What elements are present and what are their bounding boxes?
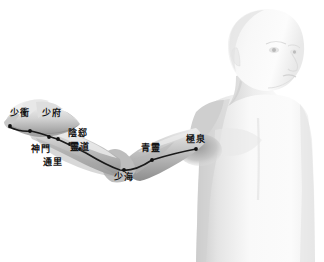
acupoint-label-shenmen: 神門 [31,144,51,154]
meridian-chart-image: 少衝少府神門通里陰郄靈道少海青靈極泉 [0,0,324,262]
acupoint-dot-shaochong[interactable] [8,124,12,128]
acupoint-dot-shaofu[interactable] [28,129,32,133]
acupoint-dot-jiquan[interactable] [194,147,198,151]
acupoint-label-shaochong: 少衝 [10,108,30,118]
acupoint-dot-tongli[interactable] [56,137,60,141]
acupoint-label-qingling: 青靈 [141,143,161,153]
acupoint-dot-shenmen[interactable] [47,135,51,139]
acupoint-label-jiquan: 極泉 [186,134,206,144]
acupoint-label-lingdao: 靈道 [70,142,90,152]
acupoint-label-shaohai: 少海 [114,172,134,182]
acupoint-dot-qingling[interactable] [150,158,154,162]
acupoint-label-yinxi: 陰郄 [68,128,88,138]
acupoint-label-tongli: 通里 [43,157,63,167]
human-figure-illustration [0,0,324,262]
acupoint-label-shaofu: 少府 [42,108,62,118]
